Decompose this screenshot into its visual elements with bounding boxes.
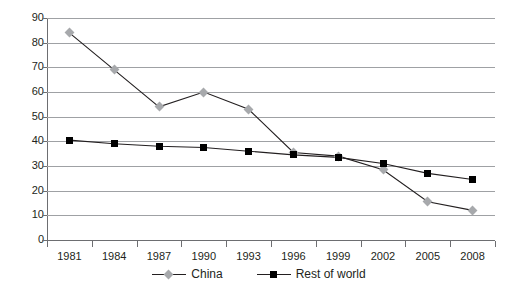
x-tick-1993 [226,241,227,247]
legend-label-china: China [191,268,222,281]
x-tick-1996 [271,241,272,247]
line-chart: 9080706050403020100 19811984198719901993… [0,0,518,288]
gridline-20 [47,191,495,192]
x-tick-end [495,241,496,247]
legend-label-rest-of-world: Rest of world [296,268,366,281]
y-tick-0 [42,240,47,241]
y-tick-60 [42,92,47,93]
x-tick-1990 [181,241,182,247]
x-tick-1981 [47,241,48,247]
y-tick-40 [42,141,47,142]
legend-item-rest-of-world[interactable]: Rest of world [257,268,366,281]
y-tick-50 [42,117,47,118]
y-axis-labels: 9080706050403020100 [0,0,44,288]
x-tick-1987 [137,241,138,247]
china-marker-icon [152,270,186,279]
gridline-70 [47,67,495,68]
gridline-60 [47,92,495,93]
rest-of-world-marker-icon [257,270,291,279]
x-tick-2002 [361,241,362,247]
y-tick-label-50: 50 [4,111,44,122]
x-tick-1984 [92,241,93,247]
chart-legend: China Rest of world [0,263,518,285]
y-tick-90 [42,18,47,19]
y-tick-label-0: 0 [4,234,44,245]
gridline-40 [47,141,495,142]
gridline-50 [47,117,495,118]
x-tick-2005 [405,241,406,247]
gridline-80 [47,43,495,44]
y-tick-30 [42,166,47,167]
y-tick-70 [42,67,47,68]
y-tick-label-20: 20 [4,185,44,196]
y-tick-label-10: 10 [4,209,44,220]
gridline-10 [47,215,495,216]
y-tick-label-40: 40 [4,135,44,146]
x-tick-1999 [316,241,317,247]
plot-area [47,18,495,240]
gridline-90 [47,18,495,19]
y-tick-20 [42,191,47,192]
y-tick-label-90: 90 [4,12,44,23]
y-tick-label-60: 60 [4,86,44,97]
x-tick-label-2008: 2008 [443,250,503,262]
y-tick-10 [42,215,47,216]
y-tick-label-70: 70 [4,61,44,72]
legend-item-china[interactable]: China [152,268,222,281]
y-tick-label-30: 30 [4,160,44,171]
y-tick-label-80: 80 [4,37,44,48]
gridline-30 [47,166,495,167]
y-tick-80 [42,43,47,44]
x-tick-2008 [450,241,451,247]
